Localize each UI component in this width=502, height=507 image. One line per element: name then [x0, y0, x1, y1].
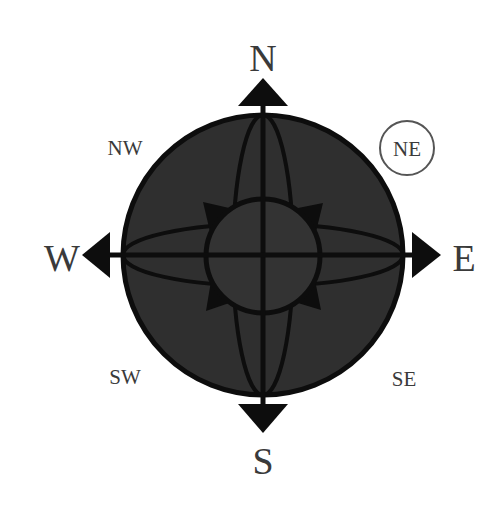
west-arrow-icon — [82, 232, 110, 278]
label-east: E — [452, 237, 475, 279]
label-west: W — [44, 237, 80, 279]
label-southeast: SE — [392, 367, 417, 391]
label-north: N — [249, 37, 276, 79]
north-arrow-icon — [238, 78, 288, 106]
label-south: S — [252, 440, 273, 482]
label-northeast: NE — [393, 137, 421, 161]
compass-rose: N E S W NW NE SW SE — [0, 0, 502, 507]
east-arrow-icon — [412, 232, 441, 278]
south-arrow-icon — [238, 404, 288, 433]
label-northwest: NW — [108, 136, 143, 160]
label-southwest: SW — [109, 365, 141, 389]
